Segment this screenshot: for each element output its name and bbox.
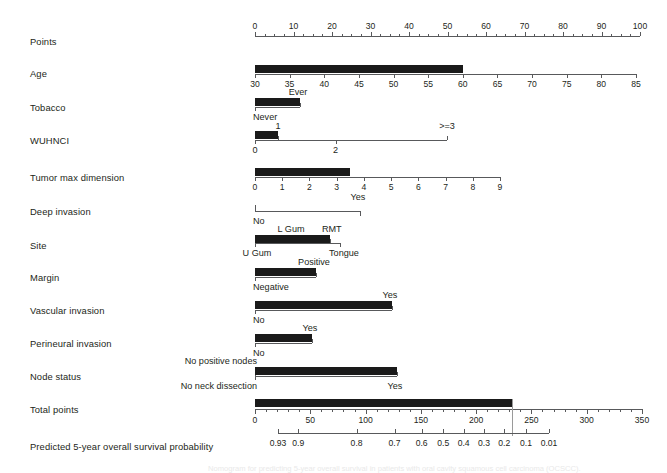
tobacco-label-ever: Ever (289, 87, 308, 97)
survival-tick-label: 0.01 (541, 438, 558, 448)
total-points-tick-minor (576, 409, 577, 412)
total-points-tick-minor (565, 409, 566, 412)
tumor-tick (309, 177, 310, 181)
points-tick-major (486, 32, 487, 37)
age-tick-label: 80 (597, 79, 607, 89)
node-status-label-no-positive-nodes: No positive nodes (185, 356, 257, 366)
margin-axis-line (255, 277, 316, 278)
tumor-tick-label: 9 (498, 182, 503, 192)
age-tick (290, 74, 291, 78)
points-tick-label: 60 (481, 21, 491, 31)
total-points-tick-label: 300 (580, 415, 594, 425)
deep-invasion-label-yes: Yes (351, 192, 366, 202)
site-label-rmt: RMT (322, 224, 342, 234)
tobacco-points-bar (255, 98, 300, 106)
points-tick-major (371, 32, 372, 37)
wuhnci-tick (447, 136, 448, 140)
total-points-tick-major (366, 409, 367, 414)
node-status-axis-line (255, 376, 397, 377)
points-tick-minor (611, 34, 612, 37)
tumor-tick-label: 5 (389, 182, 394, 192)
points-tick-major (332, 32, 333, 37)
points-tick-label: 20 (327, 21, 337, 31)
age-tick-label: 70 (527, 79, 537, 89)
site-points-bar (255, 235, 330, 243)
total-points-tick-minor (520, 409, 521, 412)
age-tick-label: 45 (354, 79, 364, 89)
tumor-tick-label: 0 (253, 182, 258, 192)
total-points-tick-label: 50 (306, 415, 316, 425)
deep-invasion-tick-no (255, 205, 256, 211)
row-label-age: Age (30, 68, 47, 79)
row-label-predicted-survival: Predicted 5-year overall survival probab… (30, 441, 213, 452)
age-tick-label: 85 (631, 79, 641, 89)
row-label-deep-invasion: Deep invasion (30, 206, 91, 217)
total-points-tick-minor (388, 409, 389, 412)
row-label-site: Site (30, 240, 47, 251)
survival-tick (549, 429, 550, 433)
points-tick-minor (284, 34, 285, 37)
perineural-points-bar (255, 334, 312, 342)
wuhnci-tick-label: 0 (252, 145, 257, 155)
perineural-label-yes: Yes (303, 323, 318, 333)
age-tick-label: 40 (319, 79, 329, 89)
perineural-axis-line (255, 343, 312, 344)
total-points-tick-minor (465, 409, 466, 412)
age-tick (428, 74, 429, 78)
points-tick-minor (505, 34, 506, 37)
survival-axis-line (278, 433, 549, 434)
row-label-wuhnci: WUHNCI (30, 135, 69, 146)
points-tick-minor (322, 34, 323, 37)
points-tick-minor (351, 34, 352, 37)
total-points-tick-major (421, 409, 422, 414)
points-tick-major (640, 32, 641, 37)
margin-tick-negative (255, 277, 256, 281)
age-tick (255, 74, 256, 78)
wuhnci-points-bar (255, 131, 278, 139)
tobacco-label-never: Never (253, 112, 277, 122)
row-label-tumor-max-dimension: Tumor max dimension (30, 172, 124, 183)
points-tick-label: 30 (366, 21, 376, 31)
points-tick-minor (303, 34, 304, 37)
points-tick-minor (438, 34, 439, 37)
survival-tick-label: 0.3 (478, 438, 490, 448)
tumor-tick (337, 177, 338, 181)
survival-tick-label: 0.9 (292, 438, 304, 448)
points-tick-minor (274, 34, 275, 37)
points-tick-minor (419, 34, 420, 37)
age-tick (394, 74, 395, 78)
total-points-tick-label: 250 (524, 415, 538, 425)
points-tick-minor (428, 34, 429, 37)
tumor-tick (282, 177, 283, 181)
points-tick-major (255, 32, 256, 37)
row-label-perineural-invasion: Perineural invasion (30, 338, 112, 349)
total-points-tick-minor (542, 409, 543, 412)
age-tick (636, 74, 637, 78)
total-points-tick-label: 200 (469, 415, 483, 425)
age-tick (497, 74, 498, 78)
tumor-axis-line (255, 177, 500, 178)
node-status-label-yes: Yes (388, 381, 403, 391)
tumor-tick (418, 177, 419, 181)
points-tick-label: 70 (520, 21, 530, 31)
points-axis-line (255, 36, 640, 37)
row-label-total-points: Total points (30, 404, 79, 415)
points-tick-minor (534, 34, 535, 37)
survival-tick (443, 429, 444, 433)
wuhnci-tick (336, 140, 337, 144)
site-tick-rmt (330, 239, 331, 243)
age-tick-label: 65 (493, 79, 503, 89)
total-points-tick-minor (443, 409, 444, 412)
total-points-tick-label: 350 (635, 415, 649, 425)
node-status-tick-yes (397, 372, 398, 376)
tumor-tick-label: 3 (334, 182, 339, 192)
points-tick-minor (476, 34, 477, 37)
tumor-tick-label: 4 (361, 182, 366, 192)
total-points-tick-minor (454, 409, 455, 412)
points-tick-label: 40 (404, 21, 414, 31)
tumor-tick (446, 177, 447, 181)
survival-tick-label: 0.2 (498, 438, 510, 448)
points-tick-minor (390, 34, 391, 37)
points-tick-minor (467, 34, 468, 37)
points-tick-label: 90 (597, 21, 607, 31)
